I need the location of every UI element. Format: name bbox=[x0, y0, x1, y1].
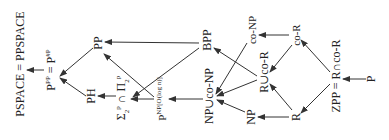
node-conp: co-NP bbox=[247, 16, 258, 44]
node-np-label: NP bbox=[244, 109, 258, 124]
node-pp: PP bbox=[92, 36, 104, 49]
node-ruecor-label: R∪co-R bbox=[257, 51, 271, 92]
node-ppp-base: P bbox=[44, 84, 58, 91]
node-p-label: P bbox=[364, 76, 378, 83]
node-conp-label: co-NP bbox=[246, 16, 258, 44]
edge-cor-ruecor bbox=[270, 45, 292, 72]
node-pi-sub: 2 bbox=[123, 79, 131, 83]
node-zpp-label: ZPP = R∩co-R bbox=[329, 40, 343, 113]
node-cor-label: co-R bbox=[290, 24, 302, 45]
node-np-union-conp: NP∪co-NP bbox=[203, 68, 215, 124]
edge-r-ruecor bbox=[270, 84, 292, 110]
node-pspace-label: PSPACE = PPSPACE bbox=[13, 11, 27, 116]
complexity-class-diagram: PSPACE = PPSPACE PPP = P#P PP PH Σ2p ∩ Π… bbox=[0, 0, 389, 140]
node-ppp-sup2: #P bbox=[44, 49, 52, 56]
node-r: R bbox=[290, 113, 302, 121]
node-pp-label: PP bbox=[91, 36, 105, 49]
edge-zpp-cor bbox=[301, 40, 330, 72]
node-p: P bbox=[365, 76, 377, 83]
node-ph: PH bbox=[85, 88, 97, 103]
node-np: NP bbox=[245, 109, 257, 124]
edge-ph-ppp bbox=[60, 78, 86, 96]
node-sigma-sup: p bbox=[114, 106, 122, 110]
node-ph-label: PH bbox=[84, 88, 98, 103]
node-sigma-cap: ∩ Π bbox=[114, 83, 128, 106]
edge-np-npuconp bbox=[217, 100, 245, 112]
node-r-label: R bbox=[289, 113, 303, 121]
node-bpp-label: BPP bbox=[200, 29, 214, 50]
node-pnplog-sup: NP[O(log n)] bbox=[155, 77, 163, 115]
node-r-union-cor: R∪co-R bbox=[258, 51, 270, 92]
node-pspace: PSPACE = PPSPACE bbox=[14, 11, 26, 116]
node-npuconp-label: NP∪co-NP bbox=[202, 68, 216, 124]
node-pnplog-base: P bbox=[156, 115, 168, 121]
node-sigma-sub: 2 bbox=[123, 110, 131, 114]
node-sigma-pi: Σ2p ∩ Π2p bbox=[115, 76, 130, 120]
node-zpp: ZPP = R∩co-R bbox=[330, 40, 342, 113]
node-bpp: BPP bbox=[201, 29, 213, 50]
edge-pp-ppp bbox=[60, 48, 93, 76]
node-ppp-sup: PP bbox=[44, 76, 52, 84]
node-pnplog: PNP[O(log n)] bbox=[156, 77, 168, 121]
node-ppp-eq: = P bbox=[44, 57, 58, 76]
edge-bpp-pp bbox=[105, 42, 199, 43]
node-cor: co-R bbox=[291, 24, 302, 45]
edge-zpp-r bbox=[301, 84, 330, 113]
node-ppp: PPP = P#P bbox=[45, 49, 57, 90]
edge-ruecor-bpp bbox=[214, 48, 257, 76]
node-sigma-base: Σ bbox=[114, 113, 128, 120]
node-pi-sup: p bbox=[114, 76, 122, 80]
